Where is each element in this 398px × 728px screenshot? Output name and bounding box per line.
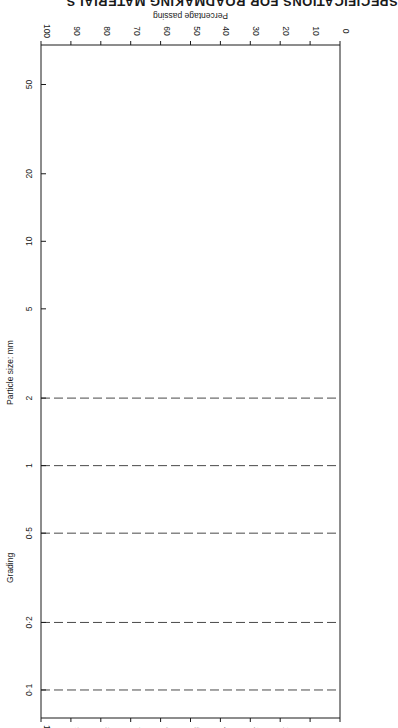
- ylabel-top: Percentage passing: [153, 11, 228, 21]
- percent-tick-label-top: 0: [341, 29, 351, 34]
- particle-size-tick-label: 2: [24, 395, 34, 400]
- percent-tick-label-top: 50: [192, 26, 202, 36]
- percent-tick-label-top: 30: [251, 26, 261, 36]
- particle-size-tick-label: 10: [24, 236, 34, 246]
- percent-tick-label-top: 40: [221, 26, 231, 36]
- particle-size-tick-label: 5: [24, 306, 34, 311]
- particle-size-tick-label: 50: [24, 80, 34, 90]
- particle-size-tick-label: 0·5: [24, 527, 34, 540]
- percent-tick-label-top: 90: [72, 26, 82, 36]
- particle-size-tick-label: 0·1: [24, 684, 34, 697]
- particle-size-tick-label: 0·2: [24, 616, 34, 629]
- chart-axes: [41, 41, 340, 722]
- percent-tick-label-top: 60: [162, 26, 172, 36]
- particle-size-tick-label: 20: [24, 169, 34, 179]
- particle-size-tick-label: 1: [24, 463, 34, 468]
- percent-tick-label-top: 20: [281, 26, 291, 36]
- axis-labels: 0010102020303040405050606070708080909010…: [5, 11, 351, 728]
- percent-tick-label-top: 80: [102, 26, 112, 36]
- particle-size-gridlines: [41, 398, 340, 690]
- grading-chart: 0010102020303040405050606070708080909010…: [0, 0, 398, 728]
- percent-tick-label-top: 10: [311, 26, 321, 36]
- particle-size-axis-label: Particle size: mm: [5, 340, 15, 405]
- chart-title-grading: Grading: [5, 553, 15, 584]
- percent-tick-label-top: 70: [132, 26, 142, 36]
- percent-tick-label-top: 100: [42, 24, 52, 38]
